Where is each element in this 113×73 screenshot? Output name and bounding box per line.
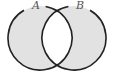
venn-diagram [0, 0, 113, 73]
set-b-label: B [76, 0, 84, 11]
set-a-label: A [32, 0, 40, 11]
